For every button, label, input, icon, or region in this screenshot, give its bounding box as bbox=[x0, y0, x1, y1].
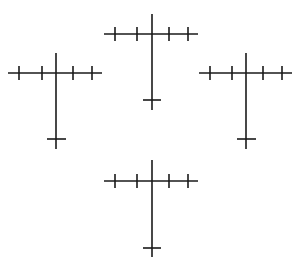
cross-figure-right bbox=[199, 53, 292, 149]
cross-figure-left bbox=[8, 53, 102, 149]
cross-figure-top bbox=[104, 14, 198, 110]
diagram-canvas bbox=[0, 0, 300, 269]
cross-figure-bottom bbox=[104, 160, 198, 257]
